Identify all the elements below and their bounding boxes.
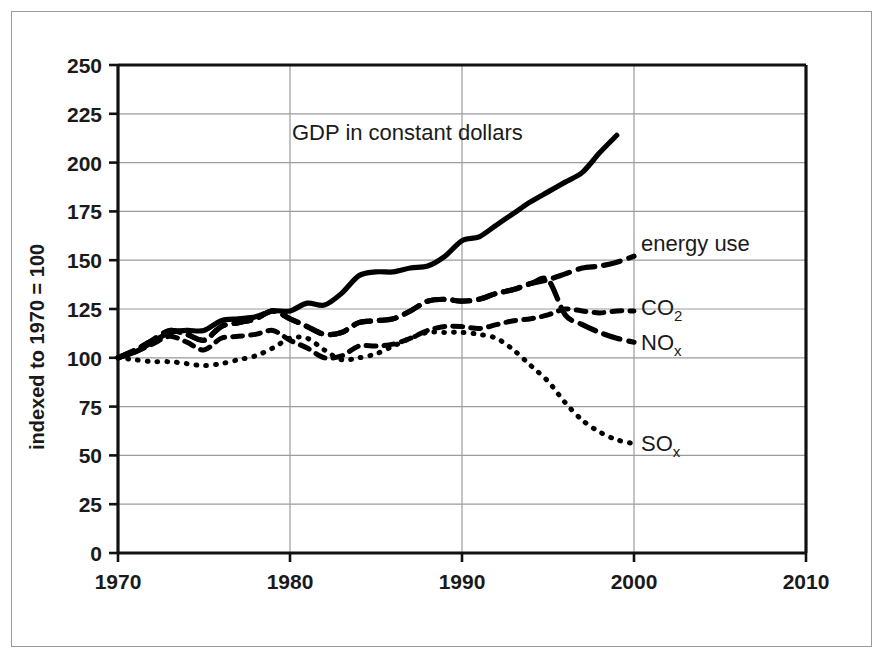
y-tick-label: 150 (67, 249, 102, 272)
plot-area-wrapper: 2502252001751501251007550250 19701980199… (0, 0, 883, 658)
annotation-co2-main: CO (641, 295, 674, 320)
annotation-sox-main: SO (641, 431, 673, 456)
line-chart-svg: 2502252001751501251007550250 19701980199… (0, 0, 883, 658)
annotation-sox-sub: x (673, 443, 681, 460)
annotation-co2: CO2 (641, 295, 682, 324)
x-tick-labels: 19701980199020002010 (95, 570, 830, 593)
y-tick-label: 50 (79, 444, 102, 467)
annotation-nox: NOx (641, 330, 682, 359)
annotation-gdp: GDP in constant dollars (292, 120, 523, 145)
series-line-gdp-in-constant-dollars (118, 135, 617, 358)
y-tick-label: 225 (67, 103, 102, 126)
x-tick-label: 1980 (267, 570, 314, 593)
y-axis-title: indexed to 1970 = 100 (26, 244, 48, 450)
y-tick-label: 200 (67, 152, 102, 175)
series-line-co2 (118, 309, 634, 358)
annotation-nox-sub: x (674, 342, 682, 359)
annotation-nox-main: NO (641, 330, 674, 355)
series-line-sox (118, 332, 634, 444)
y-tick-label: 0 (90, 542, 102, 565)
x-tick-label: 2000 (611, 570, 658, 593)
y-tick-label: 25 (79, 493, 103, 516)
chart-figure: 2502252001751501251007550250 19701980199… (0, 0, 883, 658)
y-tick-labels: 2502252001751501251007550250 (67, 54, 102, 565)
y-tick-label: 250 (67, 54, 102, 77)
x-tick-label: 1970 (95, 570, 142, 593)
x-tick-label: 1990 (439, 570, 486, 593)
series-paths-group (118, 135, 634, 443)
annotation-co2-sub: 2 (674, 307, 682, 324)
y-tick-label: 175 (67, 200, 102, 223)
x-tick-label: 2010 (783, 570, 830, 593)
y-tick-label: 125 (67, 298, 102, 321)
annotation-energy-use: energy use (641, 231, 750, 256)
y-tick-label: 75 (79, 396, 103, 419)
y-tick-label: 100 (67, 347, 102, 370)
annotation-sox: SOx (641, 431, 681, 460)
